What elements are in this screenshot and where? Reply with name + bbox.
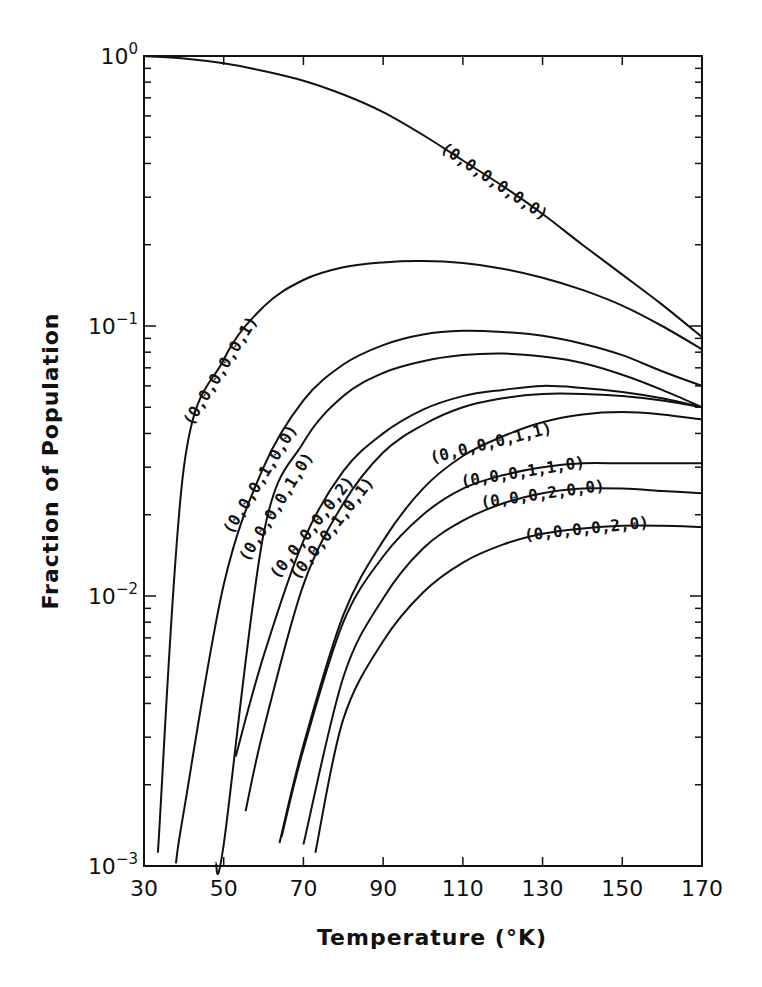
x-tick-label: 150	[601, 876, 643, 901]
y-axis-title: Fraction of Population	[38, 312, 63, 609]
x-tick-label: 110	[442, 876, 484, 901]
curve-label: (0,0,0,0,0,0)	[437, 138, 551, 224]
x-tick-label: 70	[289, 876, 317, 901]
x-tick-label: 130	[522, 876, 564, 901]
curve-label: (0,0,0,0,0,1)	[179, 313, 261, 429]
x-tick-label: 50	[210, 876, 238, 901]
y-axis-ticks: 10010−110−210−3	[88, 40, 702, 879]
y-tick-label: 100	[100, 40, 138, 69]
curves	[144, 56, 702, 874]
population-vs-temperature-chart: 30507090110130150170 10010−110−210−3 (0,…	[0, 0, 762, 987]
x-tick-label: 90	[369, 876, 397, 901]
curve-000200	[303, 488, 702, 844]
x-axis-title: Temperature (°K)	[317, 925, 547, 950]
curve-labels: (0,0,0,0,0,0)(0,0,0,0,0,1)(0,0,0,1,0,0)(…	[179, 138, 650, 583]
x-tick-label: 30	[130, 876, 158, 901]
plot-frame	[144, 56, 702, 866]
y-tick-label: 10−2	[88, 580, 138, 609]
x-tick-label: 170	[681, 876, 723, 901]
x-axis-ticks: 30507090110130150170	[130, 56, 723, 901]
y-tick-label: 10−1	[88, 310, 138, 339]
curve-000020	[315, 526, 702, 853]
curve-000000	[144, 56, 702, 337]
y-tick-label: 10−3	[88, 850, 138, 879]
curve-label: (0,0,0,0,2,0)	[523, 513, 650, 545]
